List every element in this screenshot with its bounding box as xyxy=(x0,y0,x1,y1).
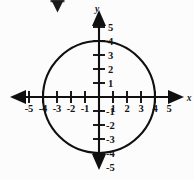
x-tick-label: 2 xyxy=(124,103,129,114)
x-tick-label: 4 xyxy=(152,103,158,114)
y-tick-label: -1 xyxy=(106,106,115,117)
y-axis-label: y xyxy=(94,4,100,14)
x-tick-label: -5 xyxy=(25,103,34,114)
y-positive-tick-labels: 1 2 3 4 5 xyxy=(108,22,114,89)
y-tick-label: 1 xyxy=(108,78,113,89)
y-tick-label: 2 xyxy=(108,64,113,75)
x-negative-tick-labels: -5 -4 -3 -2 -1 xyxy=(25,103,90,114)
y-tick-label: -2 xyxy=(106,120,115,131)
x-tick-label: -1 xyxy=(81,103,90,114)
y-tick-label: 5 xyxy=(108,22,113,33)
x-axis-right-arrow-icon xyxy=(168,90,184,104)
y-axis-down-arrow-icon xyxy=(92,154,106,170)
x-axis-label: x xyxy=(186,93,192,103)
y-axis xyxy=(92,10,106,170)
x-tick-label: -3 xyxy=(53,103,62,114)
coordinate-plane-figure: -5 -4 -3 -2 -1 1 2 3 4 5 1 2 3 4 5 -1 -2… xyxy=(0,0,194,180)
y-tick-label: -3 xyxy=(106,134,115,145)
y-tick-label: 4 xyxy=(108,36,114,47)
graph-screenshot: -5 -4 -3 -2 -1 1 2 3 4 5 1 2 3 4 5 -1 -2… xyxy=(0,0,194,180)
x-tick-label: 5 xyxy=(166,103,171,114)
x-axis-left-arrow-icon xyxy=(10,90,26,104)
y-tick-label: 3 xyxy=(108,50,113,61)
x-tick-label: -4 xyxy=(39,103,48,114)
y-negative-tick-labels: -1 -2 -3 -4 -5 xyxy=(106,106,115,173)
x-axis xyxy=(10,90,184,104)
scan-artifact-icon xyxy=(51,0,65,13)
y-tick-label: -4 xyxy=(106,148,115,159)
x-positive-tick-labels: 1 2 3 4 5 xyxy=(110,103,171,114)
x-tick-label: 3 xyxy=(138,103,143,114)
y-tick-label: -5 xyxy=(106,162,115,173)
x-tick-label: -2 xyxy=(67,103,76,114)
